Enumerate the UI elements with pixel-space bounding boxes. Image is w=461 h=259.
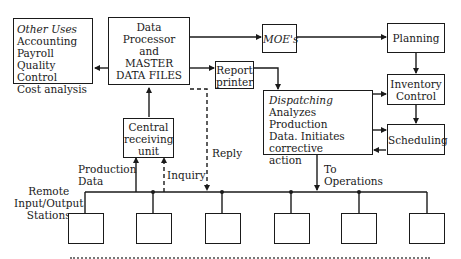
remote-station-1 <box>68 213 104 244</box>
remote-station-4 <box>274 213 310 244</box>
other-uses-item-quality-control: Quality Control <box>17 59 89 83</box>
data-processor-line-3: and <box>109 45 189 57</box>
data-processor-line-5: DATA FILES <box>109 69 189 81</box>
dispatching-line-2: Data. Initiates <box>269 130 367 142</box>
central-receiving-unit-box: Central receiving unit <box>123 118 174 158</box>
planning-box: Planning <box>387 23 445 53</box>
moes-label: MOE's <box>263 33 298 45</box>
data-processor-line-1: Data <box>109 21 189 33</box>
other-uses-box: Other Uses Accounting Payroll Quality Co… <box>13 18 93 84</box>
inventory-control-line-1: Inventory <box>388 78 444 90</box>
reply-label: Reply <box>212 147 242 159</box>
data-processor-line-2: Processor <box>109 33 189 45</box>
figure-caption-clipped <box>70 254 430 259</box>
report-printer-line-1: Report <box>216 64 253 76</box>
dispatching-line-3: corrective <box>269 142 367 154</box>
report-printer-line-2: printer <box>216 76 253 88</box>
other-uses-item-cost-analysis: Cost analysis <box>17 83 89 95</box>
to-operations-line-1: To <box>324 163 383 175</box>
central-receiving-line-2: receiving <box>124 133 173 145</box>
central-receiving-line-3: unit <box>124 145 173 157</box>
to-operations-line-2: Operations <box>324 175 383 187</box>
other-uses-item-accounting: Accounting <box>17 35 89 47</box>
remote-stations-line-1: Remote <box>14 185 83 197</box>
dispatching-box: Dispatching Analyzes Production Data. In… <box>263 90 373 155</box>
remote-station-6 <box>409 213 445 244</box>
production-data-label: Production Data <box>78 163 136 187</box>
moes-box: MOE's <box>262 24 297 53</box>
other-uses-item-payroll: Payroll <box>17 47 89 59</box>
data-processor-line-4: MASTER <box>109 57 189 69</box>
data-processor-box: Data Processor and MASTER DATA FILES <box>108 17 190 85</box>
inventory-control-box: Inventory Control <box>387 74 445 105</box>
production-data-line-1: Production <box>78 163 136 175</box>
remote-station-2 <box>136 213 172 244</box>
planning-label: Planning <box>392 32 439 44</box>
report-printer-box: Report printer <box>215 61 254 89</box>
remote-station-3 <box>205 213 241 244</box>
inquiry-label: Inquiry <box>167 169 206 181</box>
scheduling-label: Scheduling <box>388 134 448 146</box>
scheduling-box: Scheduling <box>387 124 445 155</box>
central-receiving-line-1: Central <box>124 121 173 133</box>
other-uses-title: Other Uses <box>17 23 89 35</box>
dispatching-line-1: Analyzes Production <box>269 106 367 130</box>
to-operations-label: To Operations <box>324 163 383 187</box>
inventory-control-line-2: Control <box>388 90 444 102</box>
remote-stations-line-2: Input/Output <box>14 197 83 209</box>
remote-station-5 <box>341 213 377 244</box>
production-data-line-2: Data <box>78 175 136 187</box>
dispatching-title: Dispatching <box>269 94 367 106</box>
